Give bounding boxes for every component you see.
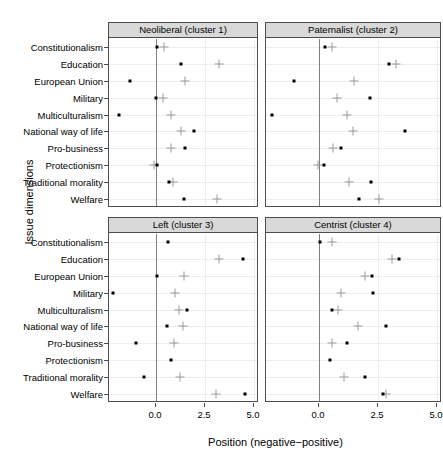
zero-reference-line [156, 234, 157, 401]
gridline-horizontal [109, 47, 257, 48]
gridline-horizontal [109, 64, 257, 65]
y-tick-label: Multiculturalism [3, 304, 103, 315]
panel-cluster4: Centrist (cluster 4) [265, 217, 441, 402]
point-marker [169, 359, 172, 362]
plus-marker [174, 305, 183, 314]
y-axis-tick-labels: ConstitutionalismEducationEuropean Union… [0, 0, 103, 460]
gridline-horizontal [266, 276, 440, 277]
y-tick-label: National way of life [3, 126, 103, 137]
gridline-horizontal [266, 242, 440, 243]
y-tick-label: European Union [3, 271, 103, 282]
plus-marker [176, 127, 185, 136]
gridline-horizontal [266, 98, 440, 99]
gridline-vertical [254, 234, 255, 401]
y-tick-label: Welfare [3, 388, 103, 399]
plot-area [266, 234, 440, 401]
gridline-horizontal [109, 242, 257, 243]
plus-marker [175, 372, 184, 381]
plus-marker [350, 77, 359, 86]
plus-marker [214, 255, 223, 264]
gridline-horizontal [109, 394, 257, 395]
point-marker [372, 291, 375, 294]
point-marker [368, 96, 371, 99]
plus-marker [349, 127, 358, 136]
panel-strip-label: Paternalist (cluster 2) [266, 23, 440, 38]
zero-reference-line [156, 39, 157, 206]
plus-marker [181, 77, 190, 86]
gridline-horizontal [266, 115, 440, 116]
gridline-horizontal [109, 360, 257, 361]
panel-cluster1: Neoliberal (cluster 1) [108, 22, 258, 207]
point-marker [293, 80, 296, 83]
plot-area [109, 234, 257, 401]
point-marker [155, 96, 158, 99]
plus-marker [179, 322, 188, 331]
x-tick-mark [318, 403, 319, 407]
plot-area [266, 39, 440, 206]
point-marker [179, 63, 182, 66]
plus-marker [337, 288, 346, 297]
point-marker [387, 63, 390, 66]
plot-area [109, 39, 257, 206]
plus-marker [327, 339, 336, 348]
plus-marker [180, 272, 189, 281]
point-marker [155, 46, 158, 49]
point-marker [371, 275, 374, 278]
point-marker [166, 241, 169, 244]
chart-root: Issue dimensions ConstitutionalismEducat… [0, 0, 443, 460]
y-tick-label: Education [3, 59, 103, 70]
point-marker [398, 258, 401, 261]
point-marker [330, 308, 333, 311]
point-marker [184, 147, 187, 150]
gridline-horizontal [266, 182, 440, 183]
plus-marker [375, 194, 384, 203]
plus-marker [332, 93, 341, 102]
plus-marker [391, 60, 400, 69]
point-marker [323, 46, 326, 49]
point-marker [404, 130, 407, 133]
point-marker [358, 197, 361, 200]
gridline-horizontal [266, 47, 440, 48]
point-marker [135, 342, 138, 345]
y-tick-label: Constitutionalism [3, 42, 103, 53]
x-tick-mark [253, 403, 254, 407]
gridline-horizontal [266, 148, 440, 149]
plus-marker [313, 161, 322, 170]
point-marker [143, 375, 146, 378]
plus-marker [166, 110, 175, 119]
gridline-horizontal [266, 199, 440, 200]
gridline-horizontal [266, 259, 440, 260]
gridline-horizontal [266, 360, 440, 361]
plus-marker [159, 43, 168, 52]
x-tick-label: 0.0 [311, 409, 324, 420]
zero-reference-line [319, 234, 320, 401]
y-tick-label: Pro-business [3, 338, 103, 349]
y-tick-label: Constitutionalism [3, 237, 103, 248]
x-axis-title: Position (negative−positive) [108, 436, 443, 448]
gridline-horizontal [109, 115, 257, 116]
gridline-vertical [437, 39, 438, 206]
gridline-horizontal [109, 259, 257, 260]
panel-strip-label: Left (cluster 3) [109, 218, 257, 233]
gridline-horizontal [109, 293, 257, 294]
x-tick-mark [204, 403, 205, 407]
plus-marker [169, 339, 178, 348]
point-marker [369, 180, 372, 183]
point-marker [319, 241, 322, 244]
y-tick-label: European Union [3, 76, 103, 87]
plus-marker [158, 93, 167, 102]
point-marker [346, 342, 349, 345]
gridline-horizontal [266, 343, 440, 344]
gridline-vertical [378, 39, 379, 206]
point-marker [328, 359, 331, 362]
y-tick-label: Protectionism [3, 355, 103, 366]
y-tick-label: Multiculturalism [3, 109, 103, 120]
y-tick-label: Protectionism [3, 160, 103, 171]
plus-marker [343, 110, 352, 119]
point-marker [193, 130, 196, 133]
gridline-vertical [378, 234, 379, 401]
point-marker [186, 308, 189, 311]
panel-cluster2: Paternalist (cluster 2) [265, 22, 441, 207]
plus-marker [327, 238, 336, 247]
plus-marker [329, 144, 338, 153]
